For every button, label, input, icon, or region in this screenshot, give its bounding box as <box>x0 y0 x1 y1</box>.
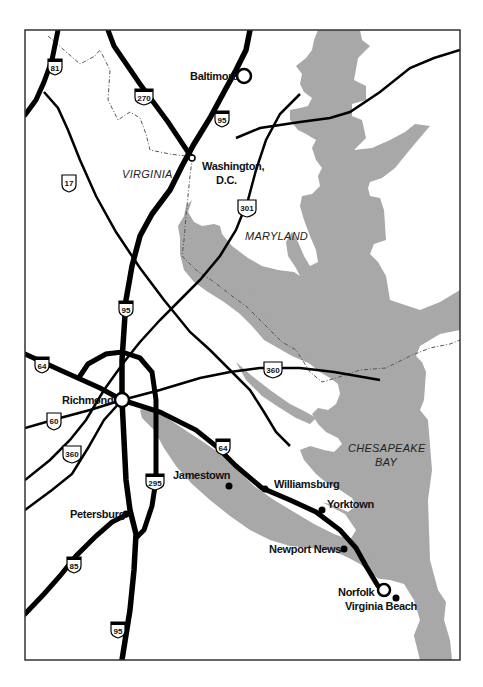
norfolk-marker <box>378 584 390 596</box>
shield-i295: 295 <box>146 474 164 490</box>
svg-text:95: 95 <box>218 116 227 125</box>
shield-i64-west: 64 <box>35 357 49 373</box>
washington-marker <box>189 155 195 161</box>
shield-i95-north: 95 <box>215 111 229 127</box>
yorktown-label: Yorktown <box>327 498 374 510</box>
norfolk-label: Norfolk <box>338 586 376 598</box>
jamestown-label: Jamestown <box>173 469 231 481</box>
map: Baltimore Washington, D.C. Richmond Pete… <box>0 0 483 687</box>
shield-i85: 85 <box>67 557 81 573</box>
svg-text:295: 295 <box>148 479 162 488</box>
baltimore-label: Baltimore <box>190 70 238 82</box>
newport-news-label: Newport News <box>269 543 341 555</box>
svg-text:270: 270 <box>137 94 151 103</box>
svg-text:85: 85 <box>70 562 79 571</box>
shield-us360-east: 360 <box>264 362 282 378</box>
baltimore-marker <box>237 69 251 83</box>
shield-us60: 60 <box>47 413 61 430</box>
washington-label-line1: Washington, <box>202 160 265 172</box>
svg-text:17: 17 <box>65 179 74 188</box>
petersburg-label: Petersburg <box>70 508 125 520</box>
richmond-label: Richmond <box>62 394 113 406</box>
shield-i95-mid: 95 <box>119 301 133 317</box>
bay-label-line2: BAY <box>375 456 397 468</box>
washington-label-line2: D.C. <box>216 174 237 186</box>
shield-i64-east: 64 <box>216 439 230 455</box>
bay-label-line1: CHESAPEAKE <box>348 442 426 454</box>
maryland-label: MARYLAND <box>245 230 308 242</box>
jamestown-marker <box>226 483 233 490</box>
virginia-label: VIRGINIA <box>122 168 173 180</box>
shield-i95-south: 95 <box>111 622 125 638</box>
shield-us17: 17 <box>62 175 76 192</box>
svg-text:81: 81 <box>51 64 60 73</box>
richmond-marker <box>115 393 129 407</box>
virginia-beach-label: Virginia Beach <box>345 600 418 612</box>
svg-text:60: 60 <box>50 417 59 426</box>
shield-us301: 301 <box>238 200 256 217</box>
svg-text:301: 301 <box>240 204 254 213</box>
williamsburg-label: Williamsburg <box>274 478 339 490</box>
svg-text:360: 360 <box>65 450 79 459</box>
shield-us360-west: 360 <box>63 446 81 463</box>
svg-text:64: 64 <box>219 444 228 453</box>
shield-i81: 81 <box>48 59 62 75</box>
svg-text:95: 95 <box>114 627 123 636</box>
williamsburg-marker <box>262 486 269 493</box>
yorktown-marker <box>319 507 326 514</box>
newport-news-marker <box>341 546 348 553</box>
shield-i270: 270 <box>135 89 153 105</box>
svg-text:95: 95 <box>122 306 131 315</box>
svg-text:64: 64 <box>38 362 47 371</box>
svg-text:360: 360 <box>266 366 280 375</box>
